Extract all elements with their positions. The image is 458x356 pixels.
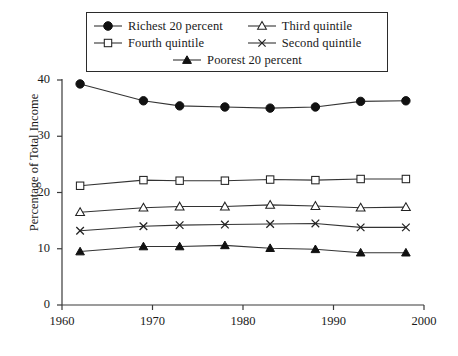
y-tick-label: 0	[20, 297, 50, 312]
y-tick-label: 10	[20, 241, 50, 256]
data-point-open-square	[76, 182, 83, 189]
x-tick-label: 1980	[221, 314, 265, 329]
data-point-open-triangle-up	[266, 200, 275, 208]
data-point-filled-circle	[356, 97, 364, 105]
series-poorest-20-percent	[76, 241, 410, 256]
data-point-filled-triangle-up	[221, 241, 230, 249]
data-point-open-square	[176, 177, 183, 184]
data-point-filled-circle	[266, 104, 274, 112]
y-tick-label: 40	[20, 72, 50, 87]
data-point-filled-circle	[402, 97, 410, 105]
series-line	[80, 245, 406, 252]
series-third-quintile	[76, 200, 411, 215]
y-tick-label: 20	[20, 185, 50, 200]
data-point-open-square	[266, 176, 273, 183]
data-point-open-square	[140, 176, 147, 183]
series-richest-20-percent	[76, 80, 410, 113]
data-point-filled-circle	[175, 102, 183, 110]
series-fourth-quintile	[76, 175, 409, 189]
data-point-open-square	[402, 175, 409, 182]
x-tick-label: 1990	[312, 314, 356, 329]
x-tick-label: 1970	[131, 314, 175, 329]
plot-area	[0, 0, 458, 356]
data-point-filled-circle	[311, 103, 319, 111]
data-point-filled-circle	[221, 103, 229, 111]
y-tick-label: 30	[20, 128, 50, 143]
data-point-open-square	[221, 177, 228, 184]
data-point-open-square	[312, 176, 319, 183]
data-point-open-triangle-up	[402, 203, 411, 211]
data-point-filled-circle	[139, 97, 147, 105]
data-point-filled-circle	[76, 80, 84, 88]
x-tick-label: 2000	[402, 314, 446, 329]
x-tick-label: 1960	[40, 314, 84, 329]
chart-figure: Richest 20 percent Third quintile	[0, 0, 458, 356]
series-line	[80, 84, 406, 108]
series-second-quintile	[76, 220, 409, 235]
data-point-open-square	[357, 175, 364, 182]
